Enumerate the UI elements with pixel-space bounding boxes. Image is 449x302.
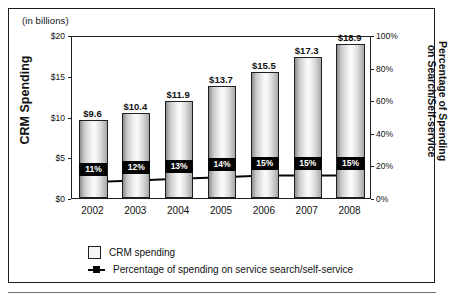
legend-item-crm-spending: CRM spending xyxy=(88,244,353,261)
percentage-value-label: 11% xyxy=(79,163,107,176)
bar-value-label: $13.7 xyxy=(199,74,243,85)
y-axis-right-tick-label: 40% xyxy=(376,129,393,139)
bar xyxy=(122,113,150,198)
legend-item-percentage-spending: Percentage of spending on service search… xyxy=(88,261,353,278)
percentage-value-label: 15% xyxy=(337,157,365,170)
percentage-value-label: 14% xyxy=(208,158,236,171)
bar-value-label: $11.9 xyxy=(156,89,200,100)
bar-value-label: $18.9 xyxy=(328,32,372,43)
percentage-value-label: 12% xyxy=(122,161,150,174)
y-axis-right-tick-label: 100% xyxy=(376,31,398,41)
bar xyxy=(336,44,364,198)
legend-line-marker-icon xyxy=(88,264,105,275)
bar-value-label: $10.4 xyxy=(113,101,157,112)
legend-item-label: Percentage of spending on service search… xyxy=(113,264,353,275)
y-axis-right-tick-label: 60% xyxy=(376,96,393,106)
bar xyxy=(208,86,236,198)
y-axis-right-tick-label: 0% xyxy=(376,194,388,204)
percentage-value-label: 15% xyxy=(251,157,279,170)
legend-bar-swatch-icon xyxy=(88,246,101,259)
percentage-value-label: 13% xyxy=(165,160,193,173)
chart-legend: CRM spending Percentage of spending on s… xyxy=(88,244,353,278)
bar xyxy=(79,120,107,198)
bar-value-label: $17.3 xyxy=(285,45,329,56)
plot-area xyxy=(71,36,371,199)
bar xyxy=(251,72,279,198)
bar xyxy=(165,101,193,198)
x-axis-tick-label: 2008 xyxy=(325,205,375,216)
plot-inner xyxy=(72,37,370,198)
bar xyxy=(294,57,322,198)
bar-value-label: $9.6 xyxy=(70,108,114,119)
percentage-value-label: 15% xyxy=(294,157,322,170)
bar-value-label: $15.5 xyxy=(242,60,286,71)
y-axis-right-tick-label: 20% xyxy=(376,161,393,171)
legend-item-label: CRM spending xyxy=(109,247,175,258)
y-axis-right-tick-label: 80% xyxy=(376,64,393,74)
